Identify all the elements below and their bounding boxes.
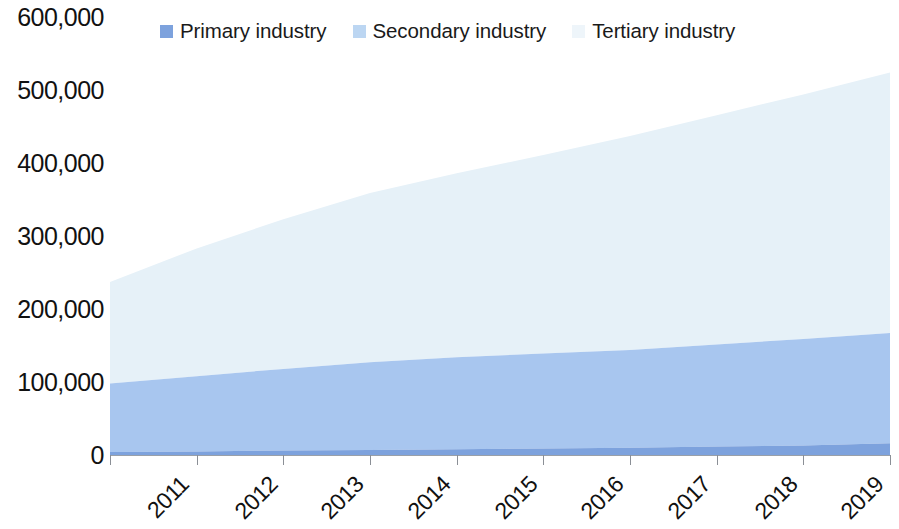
x-axis: 2011201220132014201520162017201820192020 bbox=[0, 455, 899, 529]
area-band-tertiary-industry bbox=[110, 73, 890, 384]
y-axis-tick-label: 300,000 bbox=[2, 224, 104, 249]
x-axis-tick-mark bbox=[110, 455, 111, 465]
x-axis-tick-mark bbox=[890, 455, 891, 465]
x-axis-tick-label: 2014 bbox=[402, 471, 456, 525]
x-axis-tick-mark bbox=[197, 455, 198, 465]
x-axis-tick-mark bbox=[457, 455, 458, 465]
y-axis-tick-label: 500,000 bbox=[2, 78, 104, 103]
y-axis-tick-label: 100,000 bbox=[2, 370, 104, 395]
y-axis-tick-label: 200,000 bbox=[2, 297, 104, 322]
x-axis-tick-label: 2011 bbox=[142, 471, 195, 524]
plot-area bbox=[110, 0, 890, 456]
y-axis-tick-label: 600,000 bbox=[2, 5, 104, 30]
x-axis-tick-mark bbox=[717, 455, 718, 465]
x-axis-tick-label: 2012 bbox=[229, 471, 283, 525]
x-axis-line bbox=[110, 455, 890, 456]
x-axis-tick-label: 2013 bbox=[315, 471, 369, 525]
area-series-svg bbox=[110, 0, 890, 456]
stacked-area-chart: Primary industrySecondary industryTertia… bbox=[0, 0, 899, 529]
x-axis-tick-label: 2018 bbox=[749, 471, 803, 525]
x-axis-tick-mark bbox=[283, 455, 284, 465]
x-axis-tick-label: 2015 bbox=[489, 471, 543, 525]
y-axis-tick-label: 400,000 bbox=[2, 151, 104, 176]
x-axis-tick-label: 2017 bbox=[662, 471, 716, 525]
x-axis-tick-mark bbox=[803, 455, 804, 465]
x-axis-tick-mark bbox=[370, 455, 371, 465]
x-axis-tick-mark bbox=[630, 455, 631, 465]
y-axis: 600,000500,000400,000300,000200,000100,0… bbox=[0, 0, 104, 529]
x-axis-tick-label: 2016 bbox=[575, 471, 629, 525]
x-axis-tick-mark bbox=[543, 455, 544, 465]
x-axis-tick-label: 2019 bbox=[835, 471, 889, 525]
